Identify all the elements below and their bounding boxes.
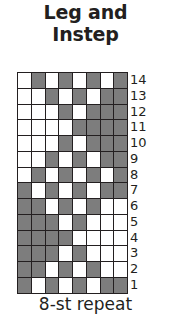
stitch-cell <box>31 167 45 183</box>
stitch-cell <box>59 262 73 278</box>
stitch-cell <box>18 73 32 89</box>
stitch-cell <box>86 262 100 278</box>
stitch-cell <box>86 88 100 104</box>
stitch-cell <box>73 120 87 136</box>
stitch-row <box>18 262 128 278</box>
stitch-cell <box>73 151 87 167</box>
stitch-cell <box>100 167 114 183</box>
stitch-cell <box>86 230 100 246</box>
stitch-row <box>18 183 128 199</box>
stitch-cell <box>45 120 59 136</box>
row-number-label: 2 <box>130 261 160 277</box>
row-number-label: 4 <box>130 230 160 246</box>
stitch-cell <box>45 262 59 278</box>
stitch-cell <box>100 88 114 104</box>
stitch-row <box>18 73 128 89</box>
stitch-row <box>18 167 128 183</box>
stitch-cell <box>100 230 114 246</box>
stitch-row <box>18 199 128 215</box>
stitch-cell <box>100 214 114 230</box>
stitch-cell <box>114 136 128 152</box>
stitch-cell <box>100 183 114 199</box>
stitch-cell <box>18 277 32 293</box>
stitch-cell <box>45 104 59 120</box>
stitch-cell <box>73 246 87 262</box>
stitch-cell <box>45 136 59 152</box>
stitch-cell <box>18 183 32 199</box>
stitch-cell <box>73 88 87 104</box>
row-number-label: 7 <box>130 182 160 198</box>
row-number-label: 3 <box>130 245 160 261</box>
stitch-cell <box>114 88 128 104</box>
row-number-label: 11 <box>130 119 160 135</box>
stitch-cell <box>45 230 59 246</box>
stitch-cell <box>86 199 100 215</box>
stitch-cell <box>59 88 73 104</box>
stitch-cell <box>100 120 114 136</box>
stitch-cell <box>86 104 100 120</box>
stitch-cell <box>31 262 45 278</box>
stitch-cell <box>31 183 45 199</box>
stitch-row <box>18 88 128 104</box>
stitch-cell <box>100 104 114 120</box>
stitch-cell <box>59 199 73 215</box>
stitch-cell <box>45 167 59 183</box>
stitch-cell <box>114 120 128 136</box>
stitch-grid-container <box>17 72 127 293</box>
stitch-row <box>18 104 128 120</box>
stitch-cell <box>86 277 100 293</box>
stitch-cell <box>59 214 73 230</box>
stitch-cell <box>45 73 59 89</box>
stitch-cell <box>114 246 128 262</box>
stitch-cell <box>86 73 100 89</box>
stitch-cell <box>100 151 114 167</box>
stitch-cell <box>18 167 32 183</box>
row-number-gutter: 1413121110987654321 <box>130 72 160 293</box>
stitch-cell <box>18 214 32 230</box>
page-title: Leg and Instep <box>0 2 171 45</box>
row-number-label: 12 <box>130 104 160 120</box>
stitch-cell <box>45 246 59 262</box>
stitch-grid-body <box>18 73 128 294</box>
stitch-cell <box>73 183 87 199</box>
stitch-cell <box>18 246 32 262</box>
stitch-cell <box>73 104 87 120</box>
stitch-cell <box>73 262 87 278</box>
stitch-cell <box>114 230 128 246</box>
stitch-cell <box>114 73 128 89</box>
stitch-cell <box>73 214 87 230</box>
stitch-cell <box>73 230 87 246</box>
stitch-cell <box>114 199 128 215</box>
stitch-row <box>18 136 128 152</box>
stitch-cell <box>18 262 32 278</box>
stitch-cell <box>31 246 45 262</box>
stitch-cell <box>59 136 73 152</box>
stitch-cell <box>45 277 59 293</box>
stitch-cell <box>59 167 73 183</box>
stitch-cell <box>45 214 59 230</box>
stitch-grid <box>17 72 128 294</box>
stitch-cell <box>73 277 87 293</box>
stitch-cell <box>18 151 32 167</box>
stitch-cell <box>100 136 114 152</box>
stitch-cell <box>73 167 87 183</box>
stitch-cell <box>45 88 59 104</box>
stitch-cell <box>31 230 45 246</box>
stitch-cell <box>86 214 100 230</box>
stitch-cell <box>86 136 100 152</box>
row-number-label: 14 <box>130 72 160 88</box>
stitch-cell <box>31 214 45 230</box>
title-line-1: Leg and <box>0 2 171 24</box>
stitch-cell <box>100 246 114 262</box>
stitch-cell <box>31 104 45 120</box>
row-number-label: 5 <box>130 214 160 230</box>
stitch-cell <box>114 262 128 278</box>
stitch-row <box>18 214 128 230</box>
stitch-cell <box>86 183 100 199</box>
stitch-cell <box>86 167 100 183</box>
row-number-label: 8 <box>130 167 160 183</box>
stitch-cell <box>59 151 73 167</box>
stitch-cell <box>73 73 87 89</box>
stitch-cell <box>59 183 73 199</box>
stitch-cell <box>100 73 114 89</box>
